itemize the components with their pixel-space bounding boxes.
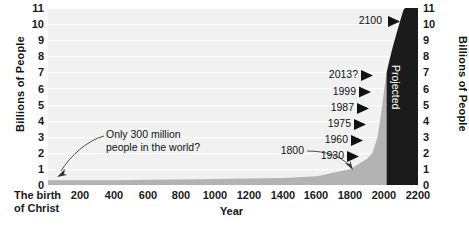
y-tick-right-2: 2	[423, 148, 445, 159]
callout-line-300-million	[61, 136, 104, 171]
x-tick-200: 200	[66, 189, 94, 201]
y-axis-title-left: Billions of People	[14, 36, 26, 132]
y-tick-right-9: 9	[423, 35, 445, 46]
x-tick-1800: 1800	[333, 189, 367, 201]
x-tick-1000: 1000	[198, 189, 232, 201]
y-tick-left-3: 3	[22, 132, 44, 143]
y-tick-right-7: 7	[423, 67, 445, 78]
annotation-2100: 2100	[348, 15, 382, 26]
x-tick-600: 600	[134, 189, 162, 201]
annotation-1975: 1975	[317, 118, 351, 129]
annotation-1960: 1960	[314, 134, 348, 145]
y-tick-right-8: 8	[423, 51, 445, 62]
y-tick-left-2: 2	[22, 148, 44, 159]
annotation-1800: 1800	[270, 145, 304, 156]
x-tick-2000: 2000	[367, 189, 401, 201]
x-tick-birth-line2: of Christ	[14, 202, 59, 214]
y-tick-right-4: 4	[423, 116, 445, 127]
y-axis-title-right: Billions of People	[457, 36, 469, 132]
x-tick-2200: 2200	[401, 189, 435, 201]
annotation-2013: 2013?	[318, 69, 358, 80]
x-tick-birth-line1: The birth	[14, 189, 61, 201]
y-tick-right-11: 11	[423, 3, 445, 14]
annotation-1999: 1999	[322, 86, 356, 97]
y-tick-left-10: 10	[22, 19, 44, 30]
y-tick-left-11: 11	[22, 3, 44, 14]
x-tick-1400: 1400	[266, 189, 300, 201]
annotation-only-300-million: Only 300 million people in the world?	[106, 128, 200, 153]
y-tick-left-1: 1	[22, 164, 44, 175]
plot-area: Projected Only 300 million people in the…	[48, 8, 418, 185]
x-tick-800: 800	[167, 189, 195, 201]
x-tick-1200: 1200	[232, 189, 266, 201]
y-tick-right-3: 3	[423, 132, 445, 143]
y-tick-right-5: 5	[423, 100, 445, 111]
y-tick-right-10: 10	[423, 19, 445, 30]
callout-arrowhead-1800	[345, 160, 353, 170]
y-tick-right-6: 6	[423, 84, 445, 95]
x-tick-1600: 1600	[299, 189, 333, 201]
x-tick-400: 400	[100, 189, 128, 201]
annotation-1987: 1987	[320, 102, 354, 113]
annotation-1930: 1930	[310, 150, 344, 161]
projected-region-label: Projected	[390, 65, 402, 109]
population-curve	[48, 8, 418, 185]
y-tick-right-1: 1	[423, 164, 445, 175]
